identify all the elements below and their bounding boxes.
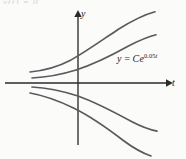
equation-exponent-variable: t [155, 52, 157, 59]
solution-curve-negative-large [30, 93, 151, 156]
curve-equation-label: y=Ce0.05t [117, 52, 157, 64]
exponential-solution-curves-figure: y(t) = 0 y t y=Ce0.05t [0, 0, 186, 159]
equation-exponent: 0.05t [144, 52, 157, 59]
equation-equals-sign: = [122, 53, 133, 64]
solution-curve-negative-small [32, 87, 157, 131]
y-axis-label: y [81, 9, 85, 19]
axes-group [5, 10, 173, 145]
equation-coefficient: Ce [133, 53, 145, 64]
solution-curves-group [30, 12, 157, 156]
figure-canvas [0, 0, 186, 159]
equation-exponent-number: 0.05 [144, 52, 155, 59]
t-axis-label: t [172, 78, 175, 88]
equation-lhs: y [117, 53, 122, 64]
